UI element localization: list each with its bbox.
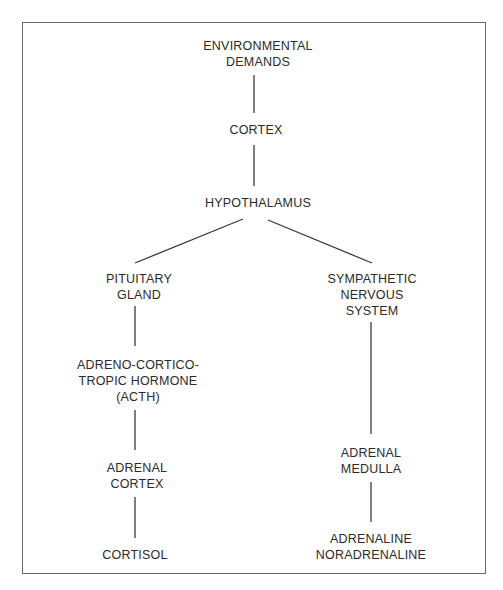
node-hypothalamus: HYPOTHALAMUS (205, 195, 311, 211)
node-line: DEMANDS (203, 54, 312, 70)
node-line: TROPIC HORMONE (77, 373, 199, 389)
node-line: GLAND (106, 287, 172, 303)
node-line: ADRENAL (107, 460, 167, 476)
node-line: ADRENALINE (316, 531, 426, 547)
node-line: CORTEX (107, 476, 167, 492)
edge-hypothalamus-sympathetic (268, 220, 372, 263)
node-adrenal-medulla: ADRENAL MEDULLA (341, 445, 401, 477)
node-line: NERVOUS (327, 287, 416, 303)
node-cortex: CORTEX (229, 122, 282, 138)
node-line: SYSTEM (327, 303, 416, 319)
connector-lines (0, 0, 503, 590)
node-line: ADRENAL (341, 445, 401, 461)
node-adrenal-cortex: ADRENAL CORTEX (107, 460, 167, 492)
node-line: HYPOTHALAMUS (205, 195, 311, 211)
node-line: SYMPATHETIC (327, 271, 416, 287)
node-environmental-demands: ENVIRONMENTAL DEMANDS (203, 38, 312, 70)
node-line: CORTISOL (102, 547, 167, 563)
node-line: NORADRENALINE (316, 547, 426, 563)
node-cortisol: CORTISOL (102, 547, 167, 563)
node-line: ADRENO-CORTICO- (77, 357, 199, 373)
edge-hypothalamus-pituitary (135, 219, 243, 263)
node-line: ENVIRONMENTAL (203, 38, 312, 54)
node-acth: ADRENO-CORTICO- TROPIC HORMONE (ACTH) (77, 357, 199, 405)
node-line: PITUITARY (106, 271, 172, 287)
node-adrenaline-noradrenaline: ADRENALINE NORADRENALINE (316, 531, 426, 563)
node-line: MEDULLA (341, 461, 401, 477)
node-line: CORTEX (229, 122, 282, 138)
node-pituitary-gland: PITUITARY GLAND (106, 271, 172, 303)
node-sympathetic-nervous-system: SYMPATHETIC NERVOUS SYSTEM (327, 271, 416, 319)
node-line: (ACTH) (77, 389, 199, 405)
